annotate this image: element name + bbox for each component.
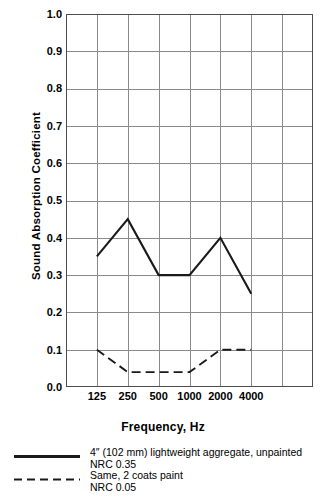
- legend-label-unpainted-line1: 4″ (102 mm) lightweight aggregate, unpai…: [90, 446, 302, 458]
- vertical-gridlines: [98, 14, 283, 387]
- y-tick-0-9: 0.9: [32, 46, 62, 57]
- x-tick-250: 250: [119, 391, 137, 402]
- x-tick-125: 125: [88, 391, 106, 402]
- x-axis-title: Frequency, Hz: [0, 420, 326, 434]
- series-line-painted: [97, 350, 251, 372]
- y-tick-0-4: 0.4: [32, 233, 62, 244]
- legend-label-painted-nrc: NRC 0.05: [90, 482, 183, 494]
- x-tick-500: 500: [149, 391, 167, 402]
- y-tick-0-8: 0.8: [32, 83, 62, 94]
- y-tick-0-7: 0.7: [32, 121, 62, 132]
- x-axis-tick-labels: 125 250 500 1000 2000 4000: [66, 391, 313, 409]
- y-tick-0-1: 0.1: [32, 345, 62, 356]
- x-tick-4000: 4000: [239, 391, 263, 402]
- plot-area: [66, 14, 313, 387]
- x-tick-2000: 2000: [208, 391, 232, 402]
- chart-legend: 4″ (102 mm) lightweight aggregate, unpai…: [14, 447, 326, 497]
- legend-entry-unpainted: 4″ (102 mm) lightweight aggregate, unpai…: [14, 447, 326, 469]
- legend-swatch-solid-line: [14, 455, 80, 458]
- series-line-unpainted: [97, 219, 251, 294]
- legend-swatch-dashed-line: [14, 478, 80, 481]
- plot-border: [67, 15, 313, 387]
- legend-label-painted: Same, 2 coats paint NRC 0.05: [90, 470, 183, 493]
- y-tick-0-5: 0.5: [32, 195, 62, 206]
- x-tick-1000: 1000: [177, 391, 201, 402]
- y-tick-0-0: 0.0: [32, 382, 62, 393]
- y-tick-1-0: 1.0: [32, 9, 62, 20]
- legend-label-painted-line1: Same, 2 coats paint: [90, 469, 183, 481]
- absorption-coefficient-chart: Sound Absorption Coefficient 1.0 0.9 0.8…: [0, 0, 326, 501]
- y-tick-0-6: 0.6: [32, 158, 62, 169]
- legend-label-unpainted: 4″ (102 mm) lightweight aggregate, unpai…: [90, 447, 302, 470]
- legend-entry-painted: Same, 2 coats paint NRC 0.05: [14, 470, 326, 492]
- y-tick-0-2: 0.2: [32, 307, 62, 318]
- chart-svg: [66, 14, 313, 387]
- y-tick-0-3: 0.3: [32, 270, 62, 281]
- horizontal-gridlines: [66, 52, 313, 351]
